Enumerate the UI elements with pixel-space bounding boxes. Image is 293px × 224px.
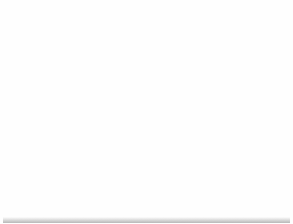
peristalsis-figure [0,0,293,224]
peristalsis-svg [0,0,293,224]
